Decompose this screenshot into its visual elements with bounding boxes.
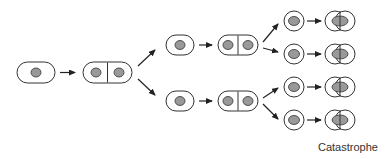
stage4-row-2 xyxy=(284,44,355,64)
stage2-dividing-cell xyxy=(83,62,132,83)
branch-arrow-icon xyxy=(263,24,278,42)
stage4-row-1 xyxy=(284,11,355,31)
stage4-row-3 xyxy=(284,77,355,97)
branch-arrow-up-icon xyxy=(138,50,155,66)
branch-arrow-icon xyxy=(263,48,278,52)
branch-arrow-down-icon xyxy=(138,79,155,95)
stage3-bottom xyxy=(166,91,258,111)
branch-arrow-icon xyxy=(263,88,278,98)
stage4-row-4 xyxy=(284,110,355,130)
catastrophe-label: Catastrophe xyxy=(318,141,378,153)
stage1-cell xyxy=(17,62,55,83)
branch-arrow-icon xyxy=(263,104,278,119)
stage3-top xyxy=(166,35,258,55)
cell-division-diagram xyxy=(0,0,386,159)
